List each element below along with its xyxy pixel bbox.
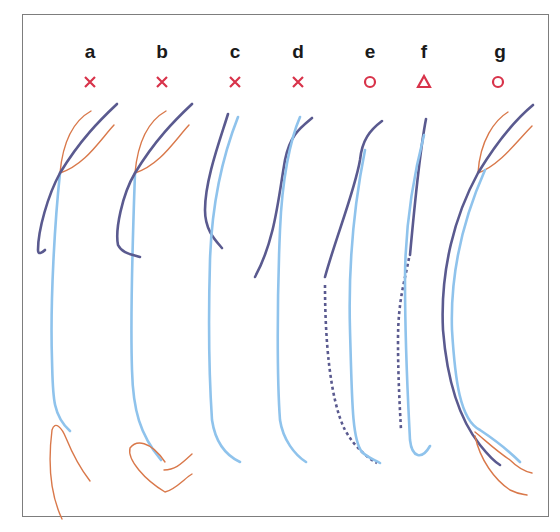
panel-label-b: b <box>156 41 168 62</box>
panel-a-curves <box>38 104 117 519</box>
panel-label-f: f <box>421 41 428 62</box>
circle-icon <box>493 77 503 87</box>
cross-icon <box>230 77 240 87</box>
curve-diagram: a b c d e f g <box>0 0 560 532</box>
panel-label-e: e <box>365 41 376 62</box>
panel-label-c: c <box>230 41 241 62</box>
panel-d-curves <box>255 117 312 462</box>
cross-icon <box>293 77 303 87</box>
panel-b-curves <box>117 104 192 492</box>
triangle-icon <box>418 76 430 87</box>
panel-e-curves <box>325 121 382 463</box>
panel-label-a: a <box>85 41 96 62</box>
panel-c-curves <box>205 114 240 462</box>
cross-icon <box>85 77 95 87</box>
panel-g-curves <box>443 105 533 495</box>
panel-label-g: g <box>494 41 506 62</box>
panel-label-d: d <box>292 41 304 62</box>
circle-icon <box>365 77 375 87</box>
panel-f-curves <box>398 119 430 455</box>
cross-icon <box>157 77 167 87</box>
